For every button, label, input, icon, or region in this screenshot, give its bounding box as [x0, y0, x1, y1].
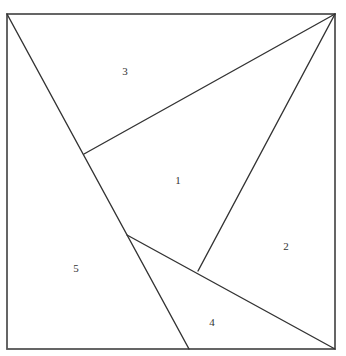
- dissection-diagram: 3 1 2 5 4: [0, 0, 346, 356]
- piece-label-4: 4: [209, 316, 215, 328]
- piece-label-2: 2: [283, 240, 289, 252]
- piece-label-3: 3: [122, 65, 128, 77]
- square-frame: [7, 14, 335, 349]
- diagonal-top-left-to-bottom-line: [7, 14, 189, 349]
- dissection-lines: [7, 14, 335, 349]
- piece-label-5: 5: [73, 262, 79, 274]
- piece-label-1: 1: [175, 174, 181, 186]
